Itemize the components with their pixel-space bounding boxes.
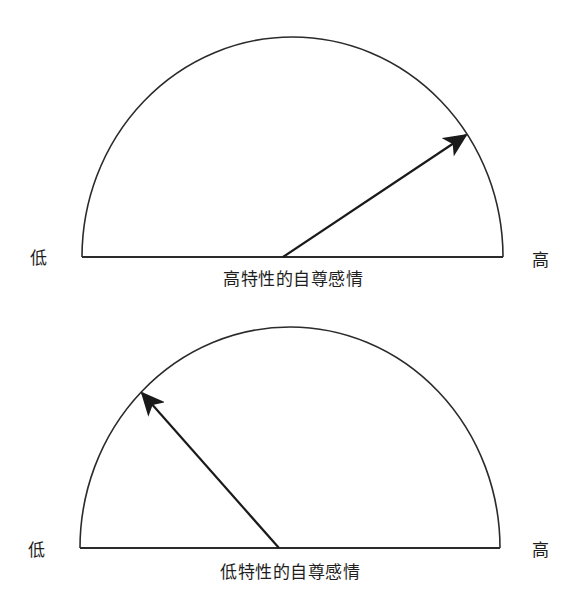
needle-arrow-icon bbox=[142, 393, 279, 548]
scale-high-label: 高 bbox=[532, 250, 549, 270]
self-esteem-gauges-diagram bbox=[0, 0, 578, 612]
gauge-arc bbox=[80, 327, 500, 548]
gauge-caption: 低特性的自尊感情 bbox=[220, 561, 360, 583]
scale-low-label: 低 bbox=[28, 540, 45, 560]
gauge-arc bbox=[82, 37, 503, 257]
needle-arrow-icon bbox=[283, 135, 466, 257]
gauge-caption: 高特性的自尊感情 bbox=[223, 268, 363, 290]
scale-low-label: 低 bbox=[30, 248, 47, 268]
gauge-low-trait-self-esteem bbox=[80, 327, 500, 548]
gauge-high-trait-self-esteem bbox=[82, 37, 503, 257]
scale-high-label: 高 bbox=[532, 540, 549, 560]
